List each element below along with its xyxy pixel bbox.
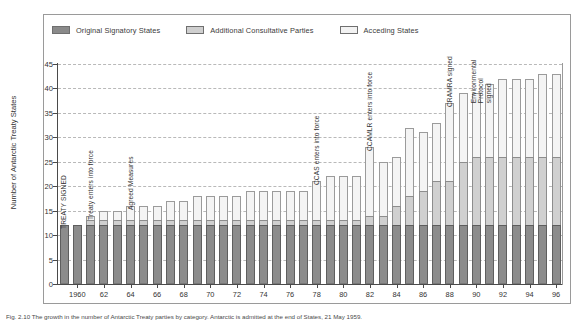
bar-segment-original — [179, 225, 188, 284]
legend-item-additional: Additional Consultative Parties — [186, 26, 313, 35]
bar-segment-original — [405, 225, 414, 284]
bar-segment-additional — [166, 220, 175, 225]
y-axis-tick-label: 30 — [45, 133, 53, 142]
bar-segment-additional — [432, 181, 441, 225]
x-axis-tick-label: 94 — [525, 290, 533, 299]
bar-segment-acceding — [286, 191, 295, 220]
bar — [99, 64, 108, 284]
bar — [538, 64, 547, 284]
bar-segment-additional — [193, 220, 202, 225]
legend-item-original: Original Signatory States — [52, 26, 160, 35]
y-axis-tick-mark — [53, 88, 57, 89]
y-axis-tick-label: 45 — [45, 60, 53, 69]
x-axis-tick-label: 96 — [552, 290, 560, 299]
bar-segment-acceding — [259, 191, 268, 220]
x-axis-tick-mark — [290, 284, 291, 288]
x-axis-tick-label: 72 — [233, 290, 241, 299]
legend-label-additional: Additional Consultative Parties — [210, 26, 313, 35]
bar-segment-acceding — [405, 128, 414, 196]
bar — [498, 64, 507, 284]
bar — [392, 64, 401, 284]
bar — [206, 64, 215, 284]
y-axis-title: Number of Antarctic Treaty States — [9, 58, 18, 248]
y-axis-tick-label: 20 — [45, 182, 53, 191]
bar-segment-original — [525, 225, 534, 284]
bar-segment-additional — [246, 220, 255, 225]
x-axis-tick-mark — [210, 284, 211, 288]
bar-segment-original — [219, 225, 228, 284]
bar — [299, 64, 308, 284]
x-axis-tick-mark — [264, 284, 265, 288]
bar-segment-additional — [392, 206, 401, 226]
x-axis-tick-label: 92 — [499, 290, 507, 299]
x-axis-tick-mark — [317, 284, 318, 288]
bar-segment-additional — [512, 157, 521, 225]
x-axis-tick-mark — [423, 284, 424, 288]
chart-annotation: CCAMLR enters into force — [366, 72, 373, 151]
bar-segment-acceding — [219, 196, 228, 220]
figure-caption: Fig. 2.10 The growth in the number of An… — [6, 313, 573, 325]
x-axis-tick-label: 78 — [313, 290, 321, 299]
bar-segment-original — [379, 225, 388, 284]
y-axis-tick-mark — [53, 64, 57, 65]
bar — [459, 64, 468, 284]
y-axis-tick-mark — [53, 186, 57, 187]
bar-segment-original — [73, 225, 82, 284]
x-axis-tick-label: 62 — [100, 290, 108, 299]
chart-annotation: CCAS enters into force — [313, 116, 320, 186]
chart-annotation: Treaty enters into force — [87, 150, 94, 220]
bar-segment-additional — [219, 220, 228, 225]
chart-annotation: CRAMRA signed — [446, 56, 453, 107]
x-axis-tick-label: 90 — [472, 290, 480, 299]
bar-segment-original — [206, 225, 215, 284]
bar — [259, 64, 268, 284]
x-axis-tick-mark — [530, 284, 531, 288]
bar-segment-original — [259, 225, 268, 284]
bar-segment-additional — [206, 220, 215, 225]
bar — [113, 64, 122, 284]
bar-segment-additional — [552, 157, 561, 225]
bar-segment-original — [126, 225, 135, 284]
bar-segment-original — [472, 225, 481, 284]
x-axis-tick-mark — [77, 284, 78, 288]
bar-segment-acceding — [525, 79, 534, 157]
bar-segment-original — [153, 225, 162, 284]
bar-segment-original — [498, 225, 507, 284]
bar — [525, 64, 534, 284]
bar-segment-additional — [339, 220, 348, 225]
bar-segment-additional — [405, 196, 414, 225]
bar-segment-additional — [259, 220, 268, 225]
x-axis-tick-mark — [476, 284, 477, 288]
bar — [232, 64, 241, 284]
bar-segment-acceding — [166, 201, 175, 221]
bar-segment-additional — [498, 157, 507, 225]
y-axis-tick-label: 35 — [45, 108, 53, 117]
x-axis-tick-label: 66 — [153, 290, 161, 299]
bar-segment-original — [299, 225, 308, 284]
chart-annotation: Environmental Protocolsigned — [470, 33, 492, 103]
bar-segment-original — [272, 225, 281, 284]
bar — [352, 64, 361, 284]
bar-segment-acceding — [312, 181, 321, 220]
bar-segment-original — [312, 225, 321, 284]
bar — [60, 64, 69, 284]
chart-annotation: Agreed Measures — [127, 156, 134, 210]
x-axis-tick-label: 74 — [259, 290, 267, 299]
bar-segment-additional — [286, 220, 295, 225]
x-axis-tick-label: 88 — [446, 290, 454, 299]
bar-segment-original — [552, 225, 561, 284]
x-axis-tick-mark — [131, 284, 132, 288]
bar-segment-acceding — [299, 191, 308, 220]
bar-segment-additional — [272, 220, 281, 225]
bar-segment-acceding — [552, 74, 561, 157]
bar-segment-additional — [538, 157, 547, 225]
bar-segment-additional — [472, 157, 481, 225]
bar-segment-original — [419, 225, 428, 284]
x-axis-tick-label: 76 — [286, 290, 294, 299]
bar-segment-acceding — [379, 162, 388, 216]
bar-segment-additional — [139, 220, 148, 225]
x-axis-tick-mark — [503, 284, 504, 288]
figure-container: Original Signatory States Additional Con… — [0, 0, 579, 326]
bar-segment-additional — [153, 220, 162, 225]
bar-segment-additional — [352, 220, 361, 225]
